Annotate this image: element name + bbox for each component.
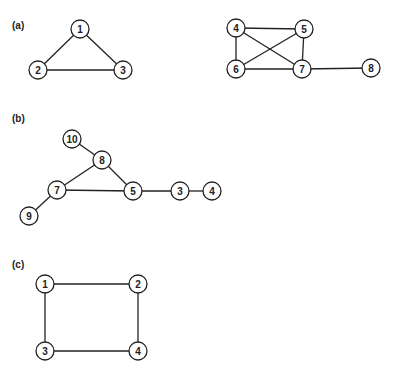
graph-diagram: (a) 123 45678 (b) 10875349 (c) 1234 [0, 0, 400, 375]
node-4: 4 [227, 19, 245, 37]
graph-b-tree-with-cycle: 10875349 [20, 130, 221, 225]
node-3: 3 [36, 342, 54, 360]
graph-a-triangle: 123 [29, 20, 132, 79]
node-4: 4 [129, 342, 147, 360]
edge-7-5 [57, 190, 133, 191]
node-7: 7 [48, 181, 66, 199]
node-5: 5 [295, 20, 313, 38]
node-label: 5 [301, 24, 307, 35]
node-10: 10 [63, 130, 81, 148]
node-label: 4 [135, 346, 141, 357]
node-2: 2 [29, 61, 47, 79]
node-label: 8 [99, 155, 105, 166]
node-label: 4 [233, 23, 239, 34]
node-label: 3 [120, 65, 126, 76]
node-label: 6 [233, 64, 239, 75]
node-label: 3 [42, 346, 48, 357]
node-label: 1 [77, 24, 83, 35]
node-label: 3 [177, 186, 183, 197]
node-label: 8 [368, 63, 374, 74]
edge-4-5 [236, 28, 304, 29]
node-7: 7 [293, 60, 311, 78]
node-9: 9 [20, 207, 38, 225]
panel-c: (c) 1234 [12, 259, 147, 360]
node-1: 1 [36, 275, 54, 293]
panel-b: (b) 10875349 [12, 113, 221, 225]
node-1: 1 [71, 20, 89, 38]
node-label: 7 [299, 64, 305, 75]
panel-label-a: (a) [12, 20, 24, 31]
node-label: 7 [54, 185, 60, 196]
node-label: 5 [130, 186, 136, 197]
node-label: 9 [26, 211, 32, 222]
node-4: 4 [203, 182, 221, 200]
node-8: 8 [93, 151, 111, 169]
node-8: 8 [362, 59, 380, 77]
edge-7-8 [302, 68, 371, 69]
node-3: 3 [171, 182, 189, 200]
node-3: 3 [114, 61, 132, 79]
node-label: 2 [35, 65, 41, 76]
graph-a-complete-plus-pendant: 45678 [227, 19, 380, 78]
node-2: 2 [129, 275, 147, 293]
panel-a: (a) 123 45678 [12, 19, 380, 79]
panel-label-b: (b) [12, 113, 25, 124]
panel-label-c: (c) [12, 259, 24, 270]
graph-c-square-cycle: 1234 [36, 275, 147, 360]
node-label: 4 [209, 186, 215, 197]
node-label: 1 [42, 279, 48, 290]
node-label: 10 [66, 134, 78, 145]
node-label: 2 [135, 279, 141, 290]
node-6: 6 [227, 60, 245, 78]
node-5: 5 [124, 182, 142, 200]
